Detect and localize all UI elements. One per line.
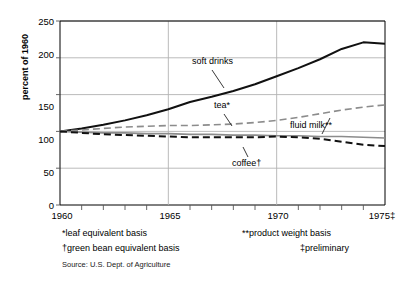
annotation-leader-line xyxy=(212,70,224,88)
footnote-preliminary: ‡preliminary xyxy=(300,243,349,253)
annotation-tea: tea* xyxy=(214,100,230,110)
annotation-fluid-milk: fluid milk** xyxy=(290,120,332,130)
annotation-soft-drinks: soft drinks xyxy=(192,56,233,66)
plot-area xyxy=(0,0,420,281)
series-line xyxy=(60,131,385,146)
chart-figure: percent of 1960 0 50 100 150 200 250 196… xyxy=(0,0,420,281)
source-note: Source: U.S. Dept. of Agriculture xyxy=(62,260,170,269)
footnote-leaf-equivalent: *leaf equivalent basis xyxy=(62,228,147,238)
annotation-coffee: coffee† xyxy=(232,158,261,168)
footnote-product-weight: **product weight basis xyxy=(242,228,331,238)
annotation-leader-line xyxy=(243,147,248,157)
footnote-green-bean: †green bean equivalent basis xyxy=(62,243,180,253)
